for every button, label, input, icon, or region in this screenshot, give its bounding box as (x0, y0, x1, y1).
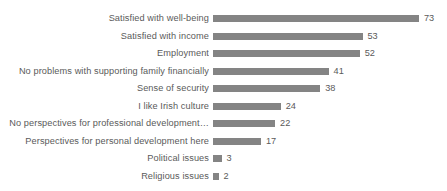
bar-value-label: 17 (266, 136, 276, 147)
bar (213, 85, 320, 92)
bar-track: 41 (213, 63, 344, 81)
category-label: Perspectives for personal development he… (0, 136, 209, 147)
bar-row: Sense of security 38 (0, 80, 447, 98)
bar-track: 2 (213, 168, 229, 186)
category-label: I like Irish culture (0, 101, 209, 112)
category-label: Political issues (0, 153, 209, 164)
category-label: Religious issues (0, 171, 209, 182)
bar-value-label: 53 (368, 31, 378, 42)
bar-row: No problems with supporting family finan… (0, 63, 447, 81)
bar (213, 15, 419, 22)
bar-row: Political issues 3 (0, 150, 447, 168)
bar-value-label: 52 (365, 48, 375, 59)
bar-track: 22 (213, 115, 290, 133)
bar-row: Religious issues 2 (0, 168, 447, 186)
plot-area: Satisfied with well-being 73 Satisfied w… (0, 0, 447, 191)
bar-value-label: 73 (424, 13, 434, 24)
bar (213, 155, 222, 162)
bar-track: 73 (213, 10, 434, 28)
bar-track: 52 (213, 45, 375, 63)
bar-row: Satisfied with well-being 73 (0, 10, 447, 28)
bar-value-label: 2 (224, 171, 229, 182)
bar-value-label: 22 (280, 118, 290, 129)
bar-chart: Satisfied with well-being 73 Satisfied w… (0, 0, 447, 191)
bar (213, 138, 261, 145)
bar-track: 38 (213, 80, 335, 98)
category-label: No perspectives for professional develop… (0, 118, 209, 129)
bar-track: 17 (213, 133, 276, 151)
bar-row: Perspectives for personal development he… (0, 133, 447, 151)
bar (213, 103, 281, 110)
category-label: Satisfied with well-being (0, 13, 209, 24)
bar-track: 24 (213, 98, 296, 116)
bar (213, 50, 360, 57)
bar-row: I like Irish culture 24 (0, 98, 447, 116)
bar (213, 173, 219, 180)
bar (213, 33, 363, 40)
bar-track: 53 (213, 28, 378, 46)
bar (213, 120, 275, 127)
bar-row: Employment 52 (0, 45, 447, 63)
category-label: Satisfied with income (0, 31, 209, 42)
bar-row: No perspectives for professional develop… (0, 115, 447, 133)
bar-value-label: 41 (334, 66, 344, 77)
bar-value-label: 3 (227, 153, 232, 164)
bar-value-label: 38 (325, 83, 335, 94)
bar-value-label: 24 (286, 101, 296, 112)
category-label: No problems with supporting family finan… (0, 66, 209, 77)
category-label: Employment (0, 48, 209, 59)
bar-track: 3 (213, 150, 232, 168)
bar (213, 68, 329, 75)
category-label: Sense of security (0, 83, 209, 94)
bar-row: Satisfied with income 53 (0, 28, 447, 46)
